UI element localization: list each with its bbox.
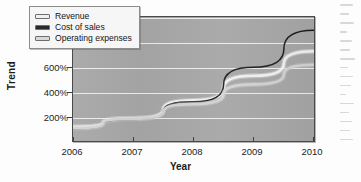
x-tick-label-2007: 2007 [112, 146, 152, 157]
y-tick-label-400: 400% [20, 88, 68, 97]
series-line-revenue [73, 51, 314, 127]
scan-margin-text [340, 4, 361, 180]
legend-swatch-cost-of-sales [35, 25, 50, 30]
legend-item-revenue: Revenue [35, 11, 132, 22]
x-tick-label-2010: 2010 [292, 146, 332, 157]
legend-label-operating-expenses: Operating expenses [55, 33, 132, 44]
legend-item-cost-of-sales: Cost of sales [35, 22, 132, 33]
x-tick-label-2008: 2008 [172, 146, 212, 157]
x-tick-label-2006: 2006 [52, 146, 92, 157]
y-tick-label-200: 200% [20, 113, 68, 122]
chart-figure: Trend 1000% 800% 600% 400% 200% Revenue [0, 0, 361, 182]
x-axis-title: Year [0, 161, 361, 172]
x-tick-label-2009: 2009 [232, 146, 272, 157]
legend-item-operating-expenses: Operating expenses [35, 33, 132, 44]
x-axis-tick-labels: 2006 2007 2008 2009 2010 [40, 146, 350, 160]
chart-legend: Revenue Cost of sales Operating expenses [29, 6, 140, 49]
y-tick-label-600: 600% [20, 63, 68, 72]
legend-label-revenue: Revenue [55, 11, 89, 22]
y-axis-title: Trend [6, 46, 17, 106]
legend-swatch-revenue [35, 14, 50, 19]
legend-label-cost-of-sales: Cost of sales [55, 22, 105, 33]
legend-swatch-operating-expenses [35, 36, 50, 41]
